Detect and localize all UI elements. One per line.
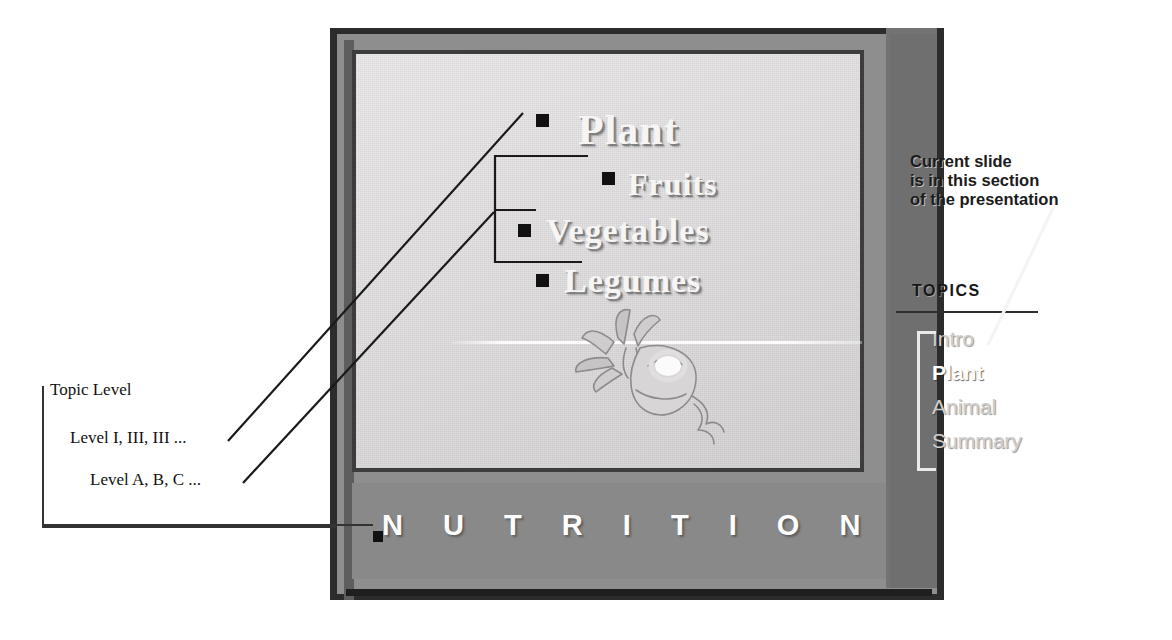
bullet-marker-fruits: [602, 172, 615, 185]
annotation-level-roman: Level I, III, III ...: [70, 428, 187, 448]
slide-canvas: Plant Fruits Vegetables Legumes: [356, 54, 860, 468]
annotation-bracket: [42, 386, 336, 528]
slide-heading-vegetables: Vegetables: [546, 212, 710, 250]
slide-heading-legumes: Legumes: [564, 262, 701, 300]
bullet-marker-nutrition: [373, 531, 383, 542]
callout-line-1: Current slide: [910, 152, 1148, 171]
slide-footer-title: N U T R I T I O N: [382, 509, 876, 542]
bullet-marker-plant: [536, 114, 549, 127]
callout-line-2: is in this section: [910, 171, 1148, 190]
bullet-marker-legumes: [536, 274, 549, 287]
slide-footer-band: N U T R I T I O N: [352, 483, 886, 579]
current-slide-callout: Current slide is in this section of the …: [910, 152, 1148, 209]
topics-bracket: [917, 331, 936, 471]
annotation-level-alpha: Level A, B, C ...: [90, 470, 201, 490]
callout-line-3: of the presentation: [910, 190, 1148, 209]
slide-heading-fruits: Fruits: [628, 166, 718, 203]
radish-illustration: [556, 304, 731, 454]
figure-root: Plant Fruits Vegetables Legumes: [0, 0, 1172, 640]
topics-divider: [896, 311, 1038, 313]
bullet-marker-vegetables: [518, 224, 531, 237]
slide-heading-plant: Plant: [578, 106, 679, 154]
topics-heading: TOPICS: [912, 282, 981, 300]
annotation-topic-level: Topic Level: [50, 380, 131, 400]
presentation-slide: Plant Fruits Vegetables Legumes: [330, 28, 944, 600]
slide-bottom-shadow: [346, 589, 932, 596]
